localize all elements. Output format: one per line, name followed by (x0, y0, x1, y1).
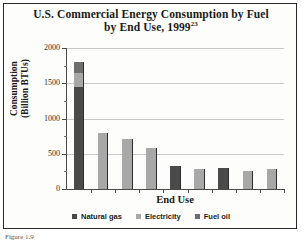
legend-swatch-icon (195, 214, 200, 219)
y-axis-label: Consumption (Billion BTUs) (9, 29, 30, 149)
bar-segment[interactable] (170, 166, 180, 189)
y-axis-label-line-1: Consumption (9, 61, 19, 116)
chart-title: U.S. Commercial Energy Consumption by Fu… (12, 8, 290, 34)
x-axis-tick (212, 189, 213, 193)
bar-segment[interactable] (194, 169, 204, 189)
bar-group[interactable] (146, 148, 157, 189)
bar-group[interactable] (170, 166, 181, 189)
bar-segment[interactable] (74, 62, 84, 73)
legend-swatch-icon (72, 214, 77, 219)
bar-segment[interactable] (146, 148, 156, 189)
bar-segment[interactable] (122, 139, 132, 189)
bar-group[interactable] (194, 169, 205, 189)
bar-segment[interactable] (74, 73, 84, 87)
legend-item[interactable]: Natural gas (72, 212, 122, 221)
bar-group[interactable] (122, 139, 133, 189)
y-axis-tick (62, 189, 67, 190)
bar-group[interactable] (98, 133, 109, 189)
x-axis-tick (284, 189, 285, 193)
bar-group[interactable] (267, 169, 278, 189)
x-axis-tick (236, 189, 237, 193)
legend-label: Natural gas (81, 212, 122, 221)
y-axis-tick-label: 500 (48, 150, 60, 158)
chart-title-line-2: by End Use, 1999 (104, 21, 191, 33)
y-axis-tick-label: 1500 (44, 79, 60, 87)
y-axis-label-line-2: (Billion BTUs) (20, 59, 30, 118)
x-axis-tick (91, 189, 92, 193)
bar-group[interactable] (218, 168, 229, 189)
bar-segment[interactable] (218, 168, 228, 189)
chart-title-superscript: 23 (191, 20, 198, 28)
bar-segment[interactable] (243, 171, 253, 189)
legend-item[interactable]: Electricity (136, 212, 181, 221)
figure-caption: Figure 1.9 (5, 233, 34, 241)
bar-group[interactable] (243, 171, 254, 189)
x-axis-label: End Use (66, 194, 284, 205)
legend-item[interactable]: Fuel oil (195, 212, 230, 221)
bar-series-container (67, 48, 284, 189)
legend-label: Electricity (145, 212, 181, 221)
plot-wrapper: 0500100015002000 (66, 48, 284, 190)
x-axis-tick (260, 189, 261, 193)
y-axis-tick-label: 2000 (44, 44, 60, 52)
x-axis-tick (188, 189, 189, 193)
bar-segment[interactable] (267, 169, 277, 189)
bar-segment[interactable] (74, 87, 84, 189)
legend-swatch-icon (136, 214, 141, 219)
bar-group[interactable] (74, 62, 85, 189)
chart-legend: Natural gasElectricityFuel oil (14, 212, 288, 221)
x-axis-tick (139, 189, 140, 193)
chart-title-line-1: U.S. Commercial Energy Consumption by Fu… (33, 8, 269, 20)
y-axis-tick-label: 1000 (44, 115, 60, 123)
bar-segment[interactable] (98, 133, 108, 189)
x-axis-tick (163, 189, 164, 193)
figure-frame: U.S. Commercial Energy Consumption by Fu… (3, 3, 297, 229)
y-axis-tick-label: 0 (56, 185, 60, 193)
legend-label: Fuel oil (204, 212, 230, 221)
x-axis-tick (115, 189, 116, 193)
plot-area: 0500100015002000 (66, 48, 284, 190)
